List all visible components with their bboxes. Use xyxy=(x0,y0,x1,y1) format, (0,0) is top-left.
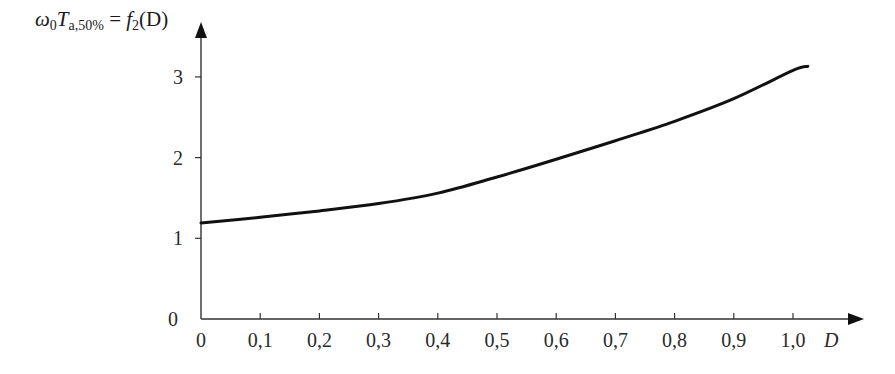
x-tick-label: 0,7 xyxy=(603,329,628,351)
x-tick-label: 0,8 xyxy=(662,329,687,351)
x-tick-label: 0,6 xyxy=(544,329,569,351)
y-tick-label: 3 xyxy=(173,66,183,88)
x-tick-label: 0 xyxy=(196,329,206,351)
x-tick-label: 0,9 xyxy=(721,329,746,351)
x-tick-label: 0,5 xyxy=(485,329,510,351)
x-tick-label: 0,1 xyxy=(248,329,273,351)
x-axis-label: D xyxy=(823,329,839,351)
data-series-line xyxy=(201,66,808,223)
x-axis-arrow-icon xyxy=(848,313,864,325)
axes xyxy=(195,22,864,325)
x-tick-label: 0,2 xyxy=(307,329,332,351)
y-axis-arrow-icon xyxy=(195,22,207,38)
y-ticks: 0123 xyxy=(168,66,201,330)
y-tick-label: 0 xyxy=(168,308,178,330)
y-tick-label: 1 xyxy=(173,227,183,249)
y-tick-label: 2 xyxy=(173,147,183,169)
line-chart: 00,10,20,30,40,50,60,70,80,91,0 0123 D xyxy=(0,0,895,374)
x-tick-label: 1,0 xyxy=(781,329,806,351)
x-tick-label: 0,4 xyxy=(425,329,450,351)
x-tick-label: 0,3 xyxy=(366,329,391,351)
